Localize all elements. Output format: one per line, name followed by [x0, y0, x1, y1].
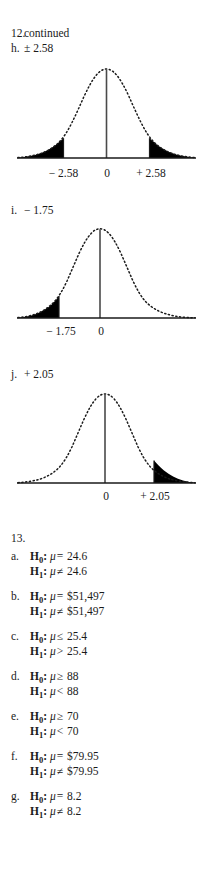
null-hypothesis-b: H0: μ= $51,497 — [30, 590, 104, 602]
item-marker-c: c. — [0, 629, 30, 644]
alt-hypothesis-c: H1: μ> 25.4 — [30, 645, 87, 657]
subitem-i-line: i.− 1.75 — [0, 203, 54, 218]
alt-hypothesis-f: H1: μ≠ $79.95 — [30, 765, 99, 777]
alt-hypothesis-a: H1: μ≠ 24.6 — [30, 565, 87, 577]
hypothesis-item-g: g. H0: μ= 8.2 H1: μ≠ 8.2 — [0, 789, 212, 818]
normal-curve-right-tail-svg — [0, 390, 212, 490]
alt-hypothesis-d: H1: μ< 88 — [30, 685, 79, 697]
null-hypothesis-e: H0: μ≥ 70 — [30, 710, 78, 722]
alt-hypothesis-g: H1: μ≠ 8.2 — [30, 805, 81, 817]
subitem-j-value: + 2.05 — [24, 367, 54, 382]
null-hypothesis-a: H0: μ= 24.6 — [30, 550, 87, 562]
problem-continued-text: continued — [24, 26, 69, 41]
alt-hypothesis-b: H1: μ≠ $51,497 — [30, 605, 104, 617]
item-marker-f: f. — [0, 749, 30, 764]
normal-curve-left-tail-svg — [0, 225, 212, 325]
hypothesis-list: a. H0: μ= 24.6 H1: μ≠ 24.6 b. H0: μ= $51… — [0, 549, 212, 829]
problem-header: 12.continued h.± 2.58 — [0, 26, 212, 56]
axis-labels-figure-j: 0 + 2.05 — [0, 490, 212, 510]
subitem-i-value: − 1.75 — [24, 203, 54, 218]
problem-number: 12. — [0, 26, 24, 41]
right-tail-shading — [150, 138, 196, 158]
subitem-h-value: ± 2.58 — [24, 41, 53, 56]
subitem-j-line: j.+ 2.05 — [0, 367, 54, 382]
subitem-h-line: h.± 2.58 — [0, 41, 212, 56]
figure-two-tailed-258: − 2.58 0 + 2.58 — [0, 62, 212, 187]
figure-left-tailed-175: − 1.75 0 — [0, 225, 212, 345]
item-marker-e: e. — [0, 709, 30, 724]
subitem-i-marker: i. — [0, 203, 24, 218]
normal-curve-two-tails-svg — [0, 62, 212, 167]
null-hypothesis-c: H0: μ≤ 25.4 — [30, 630, 87, 642]
hypothesis-item-b: b. H0: μ= $51,497 H1: μ≠ $51,497 — [0, 589, 212, 618]
null-hypothesis-f: H0: μ= $79.95 — [30, 750, 99, 762]
axis-label-center: 0 — [98, 325, 104, 337]
textbook-page: 12.continued h.± 2.58 − 2.58 0 + 2.58 — [0, 0, 212, 894]
item-marker-a: a. — [0, 549, 30, 564]
axis-label-center: 0 — [103, 490, 109, 502]
hypothesis-item-f: f. H0: μ= $79.95 H1: μ≠ $79.95 — [0, 749, 212, 778]
axis-label-left: − 2.58 — [49, 167, 79, 179]
left-tail-shading — [18, 138, 64, 158]
subitem-j-marker: j. — [0, 367, 24, 382]
left-tail-shading — [18, 296, 59, 318]
subitem-h-marker: h. — [0, 41, 24, 56]
item-marker-b: b. — [0, 589, 30, 604]
null-hypothesis-d: H0: μ≥ 88 — [30, 670, 78, 682]
axis-label-right: + 2.05 — [140, 490, 170, 502]
hypothesis-item-a: a. H0: μ= 24.6 H1: μ≠ 24.6 — [0, 549, 212, 578]
null-hypothesis-g: H0: μ= 8.2 — [30, 790, 81, 802]
item-marker-g: g. — [0, 789, 30, 804]
axis-labels-figure-h: − 2.58 0 + 2.58 — [0, 167, 212, 187]
axis-label-right: + 2.58 — [136, 167, 166, 179]
bell-curve-path — [18, 394, 195, 483]
item-marker-d: d. — [0, 669, 30, 684]
axis-labels-figure-i: − 1.75 0 — [0, 325, 212, 345]
right-tail-shading — [154, 461, 195, 484]
figure-right-tailed-205: 0 + 2.05 — [0, 390, 212, 510]
alt-hypothesis-e: H1: μ< 70 — [30, 725, 79, 737]
axis-label-left: − 1.75 — [46, 325, 76, 337]
bell-curve-path — [18, 229, 195, 318]
section-number-13: 13. — [11, 531, 25, 546]
hypothesis-item-c: c. H0: μ≤ 25.4 H1: μ> 25.4 — [0, 629, 212, 658]
problem-continued-line: 12.continued — [0, 26, 212, 41]
hypothesis-item-e: e. H0: μ≥ 70 H1: μ< 70 — [0, 709, 212, 738]
hypothesis-item-d: d. H0: μ≥ 88 H1: μ< 88 — [0, 669, 212, 698]
axis-label-center: 0 — [104, 167, 110, 179]
